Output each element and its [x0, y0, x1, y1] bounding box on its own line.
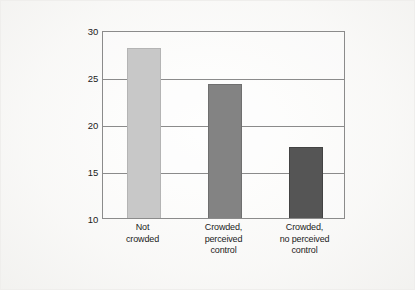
- bar: [127, 48, 161, 218]
- bar: [289, 147, 323, 218]
- x-tick-label-line: no perceived: [258, 234, 352, 246]
- bar: [208, 84, 242, 218]
- bar-chart-figure: Number of attempts to solve puzzles 1015…: [0, 0, 415, 290]
- y-tick-label: 15: [72, 167, 98, 178]
- x-tick-label-line: crowded: [96, 234, 190, 246]
- x-tick-label-line: Crowded,: [258, 222, 352, 234]
- x-axis-tick-labels: NotcrowdedCrowded,perceivedcontrolCrowde…: [102, 222, 345, 268]
- x-tick-label: Crowded,no perceivedcontrol: [258, 222, 352, 257]
- x-tick-label: Notcrowded: [96, 222, 190, 245]
- y-tick-label: 30: [72, 26, 98, 37]
- x-tick-label-line: control: [177, 245, 271, 257]
- x-tick-label: Crowded,perceivedcontrol: [177, 222, 271, 257]
- y-tick-label: 10: [72, 214, 98, 225]
- y-axis-tick-labels: 1015202530: [69, 31, 98, 219]
- plot-area: [102, 31, 345, 219]
- x-tick-label-line: control: [258, 245, 352, 257]
- x-tick-label-line: perceived: [177, 234, 271, 246]
- x-tick-label-line: Crowded,: [177, 222, 271, 234]
- y-tick-label: 25: [72, 73, 98, 84]
- x-tick-label-line: Not: [96, 222, 190, 234]
- y-tick-label: 20: [72, 120, 98, 131]
